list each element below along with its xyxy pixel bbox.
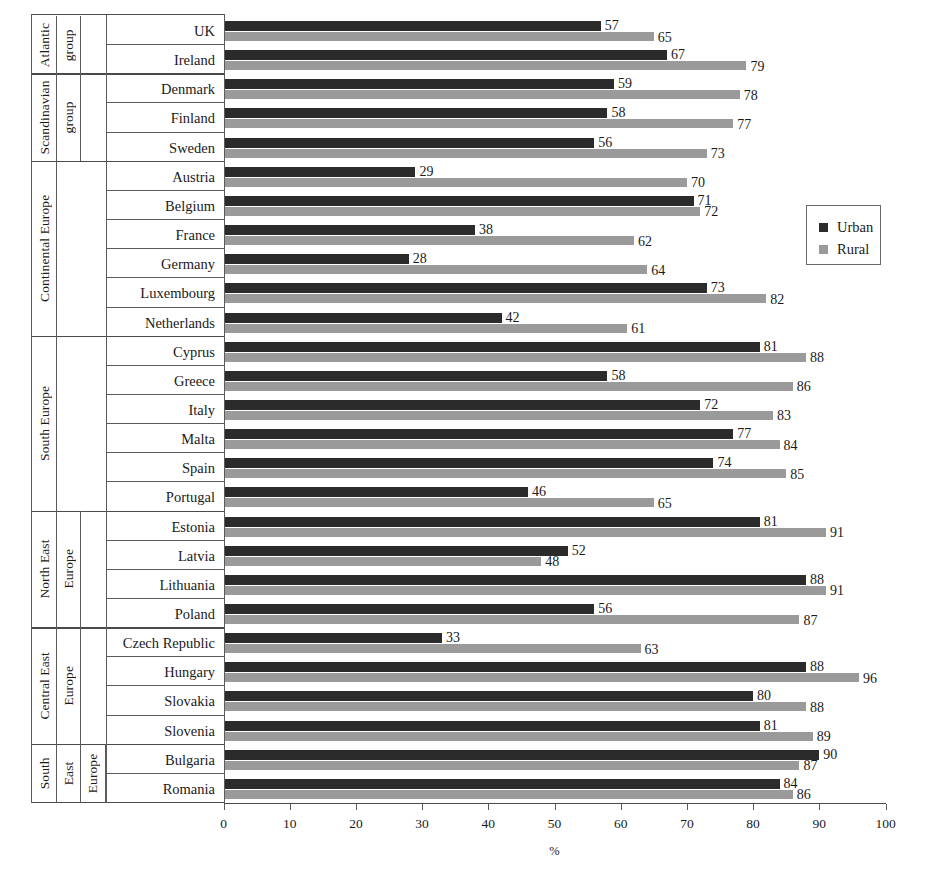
bar-urban [224,400,701,410]
bar-rural [224,440,780,449]
bar-urban [224,750,820,760]
group-label: East [57,744,80,802]
bar-rural [224,644,641,653]
row-separator [106,394,224,395]
country-label: Czech Republic [106,636,215,651]
bar-urban [224,429,734,439]
x-tick [555,804,556,810]
bar-value-rural: 77 [737,118,751,132]
x-tick [356,804,357,810]
bar-rural [224,61,747,70]
country-label: Poland [106,607,215,622]
bar-value-rural: 79 [750,60,764,74]
frame-left-line [31,14,32,803]
bar-rural [224,119,734,128]
row-separator [106,540,224,541]
row-separator [106,219,224,220]
bar-value-urban: 81 [764,515,778,529]
bar-value-rural: 65 [658,31,672,45]
bar-urban [224,167,416,177]
group-label: Central East [33,628,56,745]
x-tick [290,804,291,810]
bar-value-rural: 82 [770,293,784,307]
group-label: Scandinavian [33,74,56,161]
x-tick-label: 0 [199,817,249,831]
legend-item[interactable]: Urban [819,219,873,236]
bar-urban [224,50,668,60]
bar-value-rural: 86 [797,380,811,394]
country-label: Lithuania [106,578,215,593]
row-separator [106,277,224,278]
bar-rural [224,411,773,420]
x-tick-label: 30 [397,817,447,831]
bar-value-rural: 84 [784,439,798,453]
bar-urban [224,254,409,264]
legend-item[interactable]: Rural [819,241,869,258]
bar-urban [224,633,442,643]
row-separator [106,715,224,716]
group-label: North East [33,511,56,628]
bar-value-rural: 70 [691,176,705,190]
bar-rural [224,236,634,245]
group-label: group [57,74,80,161]
bar-value-urban: 56 [598,602,612,616]
x-tick-label: 10 [265,817,315,831]
group-label: Europe [57,628,80,745]
bar-value-rural: 86 [797,788,811,802]
bar-value-rural: 91 [830,584,844,598]
x-tick-label: 50 [530,817,580,831]
country-column-divider [106,14,107,803]
x-tick [621,804,622,810]
group-label: Atlantic [33,16,56,74]
country-label: UK [106,24,215,39]
group-label: Europe [57,511,80,628]
bar-value-urban: 84 [784,777,798,791]
x-tick [753,804,754,810]
bar-urban [224,604,595,614]
country-label: Cyprus [106,345,215,360]
group-label: group [57,16,80,74]
bar-value-rural: 88 [810,351,824,365]
bar-value-urban: 33 [446,631,460,645]
bar-value-rural: 63 [645,643,659,657]
bar-rural [224,149,707,158]
country-label: Latvia [106,549,215,564]
bar-value-urban: 72 [704,398,718,412]
x-tick [886,804,887,810]
bar-value-rural: 88 [810,701,824,715]
country-label: Netherlands [106,316,215,331]
bar-urban [224,487,529,497]
bar-value-urban: 67 [671,48,685,62]
row-separator [106,452,224,453]
bar-urban [224,21,601,31]
country-label: Germany [106,257,215,272]
row-separator [106,190,224,191]
bar-value-rural: 87 [803,614,817,628]
bar-rural [224,702,807,711]
bar-value-rural: 65 [658,497,672,511]
bar-rural [224,353,807,362]
group-label: South Europe [33,336,56,511]
bar-value-rural: 78 [744,89,758,103]
urban-swatch-icon [819,223,828,232]
bar-rural [224,528,826,537]
x-tick [422,804,423,810]
bar-value-rural: 62 [638,235,652,249]
bar-rural [224,732,813,741]
row-separator [106,569,224,570]
plot-area: UK5765Ireland6779Denmark5978Finland5877S… [0,0,927,892]
bar-value-urban: 74 [717,456,731,470]
bar-urban [224,575,807,585]
row-separator [106,248,224,249]
country-label: Slovenia [106,724,215,739]
bar-urban [224,283,707,293]
rural-swatch-icon [819,245,828,254]
row-separator [106,365,224,366]
bar-value-urban: 90 [823,748,837,762]
country-label: Spain [106,461,215,476]
bar-urban [224,721,760,731]
x-axis-title: % [515,844,595,859]
bar-value-rural: 91 [830,526,844,540]
bar-rural [224,294,767,303]
bar-urban [224,108,608,118]
